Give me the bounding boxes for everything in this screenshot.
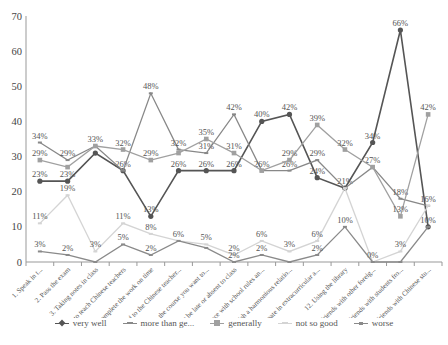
data-point-marker[interactable] (287, 158, 292, 163)
legend-item-very-well[interactable]: very well (55, 318, 107, 328)
data-point-marker[interactable] (66, 194, 70, 196)
data-label: 6% (173, 229, 184, 239)
data-point-marker[interactable] (371, 261, 375, 263)
data-point-marker[interactable] (232, 113, 236, 115)
data-point-marker[interactable] (370, 165, 375, 170)
data-point-marker[interactable] (93, 261, 97, 263)
data-point-marker[interactable] (343, 147, 348, 152)
legend-item-more-than-good[interactable]: more than ge... (123, 318, 195, 328)
data-point-marker[interactable] (149, 254, 153, 256)
data-point-marker[interactable] (38, 250, 42, 252)
data-point-marker[interactable] (37, 179, 42, 184)
data-point-marker[interactable] (398, 27, 403, 32)
data-point-marker[interactable] (204, 243, 208, 245)
data-point-marker[interactable] (65, 165, 70, 170)
data-point-marker[interactable] (315, 123, 320, 128)
data-label: 16% (420, 194, 436, 204)
data-point-marker[interactable] (398, 198, 402, 200)
data-point-marker[interactable] (121, 170, 125, 172)
legend-label: worse (372, 318, 394, 328)
data-point-marker[interactable] (315, 159, 319, 161)
data-point-marker[interactable] (315, 240, 319, 242)
data-point-marker[interactable] (398, 214, 403, 219)
data-point-marker[interactable] (93, 144, 98, 149)
data-label: 42% (226, 102, 242, 112)
line-chart: 0102030405060701. Speak in t...2. Pass t… (0, 0, 448, 345)
square-marker-icon (210, 319, 224, 327)
data-point-marker[interactable] (260, 254, 264, 256)
data-label: 23% (32, 169, 48, 179)
y-tick-label: 50 (12, 81, 23, 92)
data-label: 26% (226, 159, 242, 169)
data-point-marker[interactable] (287, 112, 292, 117)
legend-item-worse[interactable]: worse (354, 318, 394, 328)
data-point-marker[interactable] (315, 175, 320, 180)
data-label: 11% (32, 211, 47, 221)
series-line-very-well[interactable] (40, 30, 428, 227)
data-point-marker[interactable] (66, 254, 70, 256)
data-point-marker[interactable] (177, 240, 181, 242)
data-label: 2% (62, 243, 73, 253)
data-label: 32% (171, 138, 187, 148)
data-point-marker[interactable] (287, 250, 291, 252)
data-label: 3% (284, 239, 295, 249)
data-label: 32% (337, 138, 353, 148)
data-point-marker[interactable] (343, 187, 347, 189)
legend-item-generally[interactable]: generally (210, 318, 261, 328)
data-point-marker[interactable] (370, 140, 375, 145)
data-point-marker[interactable] (259, 119, 264, 124)
data-point-marker[interactable] (204, 247, 208, 249)
data-point-marker[interactable] (204, 137, 209, 142)
data-point-marker[interactable] (93, 250, 97, 252)
y-tick-label: 40 (12, 116, 23, 127)
data-point-marker[interactable] (176, 151, 181, 156)
data-point-marker[interactable] (287, 170, 291, 172)
data-point-marker[interactable] (149, 92, 153, 94)
data-point-marker[interactable] (148, 214, 153, 219)
y-tick-label: 70 (12, 11, 23, 22)
dash-marker-icon (123, 319, 137, 327)
data-point-marker[interactable] (398, 261, 402, 263)
data-point-marker[interactable] (121, 147, 126, 152)
data-point-marker[interactable] (426, 205, 430, 207)
data-point-marker[interactable] (398, 250, 402, 252)
data-point-marker[interactable] (38, 222, 42, 224)
data-label: 11% (115, 211, 130, 221)
data-point-marker[interactable] (287, 261, 291, 263)
data-point-marker[interactable] (232, 261, 236, 263)
data-point-marker[interactable] (177, 149, 181, 151)
data-point-marker[interactable] (426, 226, 430, 228)
data-point-marker[interactable] (204, 168, 209, 173)
data-point-marker[interactable] (259, 168, 264, 173)
data-point-marker[interactable] (260, 240, 264, 242)
data-point-marker[interactable] (176, 168, 181, 173)
data-label: 13% (143, 204, 159, 214)
data-point-marker[interactable] (315, 254, 319, 256)
data-label: 34% (365, 131, 381, 141)
data-point-marker[interactable] (121, 222, 125, 224)
data-point-marker[interactable] (232, 151, 237, 156)
data-point-marker[interactable] (38, 158, 43, 163)
data-point-marker[interactable] (121, 243, 125, 245)
dash-marker-icon (278, 319, 292, 327)
data-label: 10% (420, 215, 436, 225)
data-point-marker[interactable] (426, 112, 431, 117)
data-label: 3% (395, 239, 406, 249)
legend-item-not-so-good[interactable]: not so good (278, 318, 338, 328)
data-point-marker[interactable] (93, 150, 98, 155)
data-point-marker[interactable] (231, 168, 236, 173)
data-point-marker[interactable] (149, 158, 154, 163)
data-point-marker[interactable] (66, 159, 70, 161)
data-point-marker[interactable] (38, 142, 42, 144)
data-label: 8% (145, 222, 156, 232)
data-label: 5% (117, 232, 128, 242)
chart-plot-area: 0102030405060701. Speak in t...2. Pass t… (0, 0, 448, 318)
data-point-marker[interactable] (149, 233, 153, 235)
data-label: 2% (312, 243, 323, 253)
data-point-marker[interactable] (343, 226, 347, 228)
y-tick-label: 20 (12, 186, 23, 197)
legend-label: not so good (296, 318, 338, 328)
data-label: 10% (337, 215, 353, 225)
data-label: 0% (367, 250, 378, 260)
data-point-marker[interactable] (204, 152, 208, 154)
